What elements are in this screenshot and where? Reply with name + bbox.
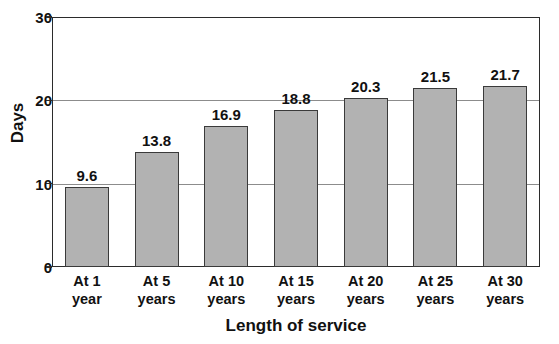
bar-value-label: 16.9	[186, 107, 266, 122]
x-tick-label-line: years	[460, 290, 550, 308]
x-axis-tick-labels: At 1yearAt 5yearsAt 10yearsAt 15yearsAt …	[52, 272, 540, 316]
bar	[204, 126, 248, 267]
bar-value-label: 20.3	[326, 79, 406, 94]
x-tick-label-line: At 30	[460, 272, 550, 290]
bar	[65, 187, 109, 267]
x-axis-title: Length of service	[52, 316, 540, 336]
x-tick-label: At 30years	[460, 272, 550, 308]
bar	[274, 110, 318, 267]
bar	[413, 88, 457, 267]
bar-value-label: 21.5	[395, 69, 475, 84]
bar-value-label: 9.6	[47, 168, 127, 183]
bar-value-label: 18.8	[256, 91, 336, 106]
bar	[135, 152, 179, 267]
bar-chart: Days 0102030 9.613.816.918.820.321.521.7…	[0, 0, 559, 344]
bar	[344, 98, 388, 267]
bar-value-label: 13.8	[117, 133, 197, 148]
bar-value-label: 21.7	[465, 67, 545, 82]
bars-layer: 9.613.816.918.820.321.521.7	[52, 17, 540, 267]
bar	[483, 86, 527, 267]
